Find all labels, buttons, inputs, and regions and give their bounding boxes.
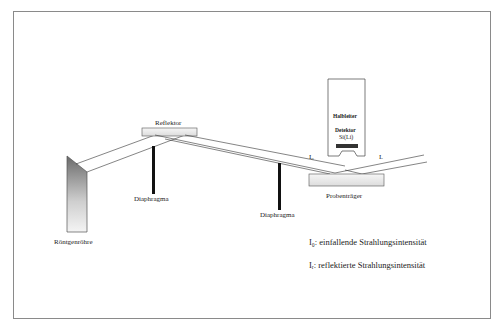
label-reflector: Reflektor (155, 119, 181, 127)
legend-text: : reflektierte Strahlungsintensität (314, 260, 425, 270)
label-beam-incident: I₀ (309, 153, 314, 161)
legend-incident: I₀: einfallende Strahlungsintensität (309, 237, 427, 247)
beam-source-to-reflector (76, 135, 185, 172)
label-detector-detektor: Detektor (335, 127, 356, 133)
legend-reflected: Iᵣ: reflektierte Strahlungsintensität (309, 260, 425, 270)
diaphragm-2 (278, 163, 281, 210)
xray-tube (67, 156, 87, 232)
diaphragm-1 (152, 146, 155, 194)
label-detector-halbleiter: Halbleiter (333, 113, 357, 119)
legend-text: : einfallende Strahlungsintensität (315, 237, 427, 247)
label-beam-reflected: Iᵣ (379, 153, 383, 161)
label-diaphragm-2: Diaphragma (260, 211, 295, 219)
beam-reflector-to-sample (155, 135, 345, 174)
reflector (142, 128, 197, 136)
label-xray-tube: Röntgenröhre (54, 238, 93, 246)
label-diaphragm-1: Diaphragma (134, 195, 169, 203)
label-sample-holder: Probenträger (326, 192, 362, 200)
diagram-drawing (0, 0, 504, 329)
label-detector-type: Si(Li) (339, 134, 353, 140)
detector-crystal (336, 144, 358, 148)
sample-holder (309, 174, 384, 186)
